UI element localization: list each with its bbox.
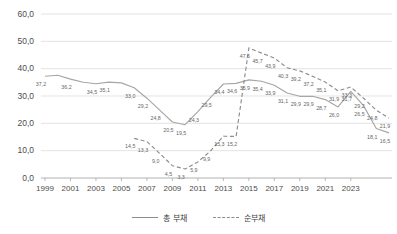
data-point-label: 13,3 bbox=[138, 147, 148, 153]
data-point-label: 33,9 bbox=[265, 90, 275, 96]
data-point-label: 16,5 bbox=[380, 138, 390, 144]
legend-item-total-debt[interactable]: 총 부채 bbox=[132, 212, 186, 223]
axis-ticks bbox=[45, 178, 351, 181]
data-point-label: 26,5 bbox=[354, 111, 364, 117]
legend-item-net-debt[interactable]: 순부채 bbox=[213, 212, 265, 223]
data-point-label: 29,5 bbox=[201, 102, 211, 108]
y-axis-tick-label: 60,0 bbox=[0, 9, 34, 19]
legend-swatch-solid-icon bbox=[132, 217, 158, 218]
legend-label-net-debt: 순부채 bbox=[244, 212, 265, 223]
data-point-label: 37,2 bbox=[303, 81, 313, 87]
data-point-label: 45,7 bbox=[252, 58, 262, 64]
data-point-label: 19,5 bbox=[176, 130, 186, 136]
data-point-label: 5,9 bbox=[190, 167, 197, 173]
y-axis-tick-label: 30,0 bbox=[0, 91, 34, 101]
chart-legend: 총 부채 순부채 bbox=[0, 206, 397, 228]
data-point-label: 26,0 bbox=[329, 112, 339, 118]
data-point-label: 47,6 bbox=[240, 53, 250, 59]
y-axis-tick-label: 40,0 bbox=[0, 63, 34, 73]
data-point-label: 31,9 bbox=[329, 96, 339, 102]
y-axis-tick-label: 0,0 bbox=[0, 173, 34, 183]
data-point-label: 37,2 bbox=[36, 81, 46, 87]
data-point-label: 34,5 bbox=[87, 89, 97, 95]
data-point-label: 15,3 bbox=[214, 141, 224, 147]
data-point-label: 35,1 bbox=[316, 87, 326, 93]
legend-swatch-dashed-icon bbox=[213, 217, 239, 218]
data-point-label: 35,1 bbox=[100, 87, 110, 93]
y-axis-tick-label: 10,0 bbox=[0, 145, 34, 155]
data-point-label: 29,9 bbox=[303, 101, 313, 107]
data-point-label: 14,5 bbox=[125, 143, 135, 149]
data-point-label: 24,8 bbox=[151, 115, 161, 121]
chart-container: 0,010,020,030,040,050,060,0 199920012003… bbox=[0, 0, 397, 234]
data-point-label: 24,8 bbox=[367, 115, 377, 121]
data-point-label: 40,3 bbox=[278, 73, 288, 79]
data-point-label: 33,3 bbox=[342, 92, 352, 98]
data-point-label: 29,2 bbox=[354, 103, 364, 109]
data-point-label: 34,4 bbox=[214, 89, 224, 95]
data-point-label: 29,9 bbox=[291, 101, 301, 107]
series-line-total-debt bbox=[45, 75, 389, 133]
data-point-label: 34,6 bbox=[227, 88, 237, 94]
data-point-label: 33,0 bbox=[125, 93, 135, 99]
data-point-label: 31,1 bbox=[278, 98, 288, 104]
data-point-label: 9,0 bbox=[152, 158, 159, 164]
legend-label-total-debt: 총 부채 bbox=[163, 212, 186, 223]
data-point-label: 28,7 bbox=[316, 105, 326, 111]
data-point-label: 18,1 bbox=[367, 134, 377, 140]
data-point-label: 24,3 bbox=[189, 117, 199, 123]
gridlines bbox=[41, 14, 392, 151]
data-point-label: 15,2 bbox=[227, 141, 237, 147]
data-point-label: 29,2 bbox=[138, 103, 148, 109]
x-axis-tick-label: 2023 bbox=[336, 184, 366, 193]
data-point-label: 4,5 bbox=[165, 171, 172, 177]
data-point-label: 21,9 bbox=[380, 123, 390, 129]
data-point-label: 36,2 bbox=[61, 84, 71, 90]
data-point-label: 20,5 bbox=[163, 127, 173, 133]
y-axis-tick-label: 20,0 bbox=[0, 118, 34, 128]
data-point-label: 9,9 bbox=[203, 156, 210, 162]
data-point-label: 39,2 bbox=[291, 76, 301, 82]
data-point-label: 43,9 bbox=[265, 63, 275, 69]
data-point-label: 35,9 bbox=[240, 85, 250, 91]
data-point-label: 35,4 bbox=[252, 86, 262, 92]
data-point-label: 3,3 bbox=[177, 174, 184, 180]
y-axis-tick-label: 50,0 bbox=[0, 36, 34, 46]
